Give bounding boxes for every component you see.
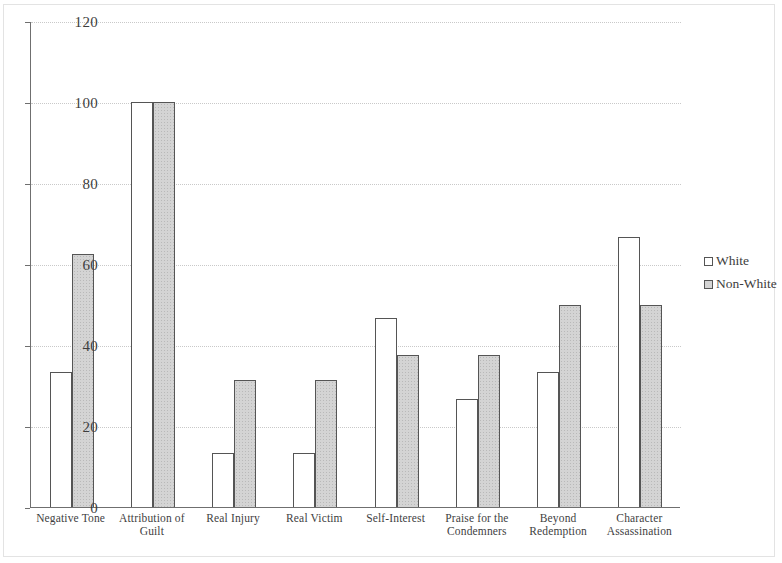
bar-non-white[interactable] (397, 355, 419, 507)
legend-item-non-white[interactable]: Non-White (704, 277, 780, 291)
y-tick-mark-0 (25, 508, 30, 509)
bar-group (456, 21, 500, 507)
bar-group (537, 21, 581, 507)
y-tick-label-40: 40 (52, 339, 98, 354)
bar-group (375, 21, 419, 507)
x-axis-label: Praise for theCondemners (436, 512, 517, 538)
bar-white[interactable] (50, 372, 72, 507)
bar-white[interactable] (375, 318, 397, 507)
legend-swatch-icon (704, 257, 713, 266)
y-tick-mark-120 (25, 22, 30, 23)
x-axis-label: Real Injury (193, 512, 274, 538)
plot-area (30, 22, 680, 508)
bar-non-white[interactable] (478, 355, 500, 507)
bar-non-white[interactable] (640, 305, 662, 508)
legend-swatch-icon (704, 280, 713, 289)
bar-white[interactable] (131, 102, 153, 507)
bar-white[interactable] (456, 399, 478, 507)
x-axis-label-line: Beyond (518, 512, 599, 525)
x-axis-label-line: Character (599, 512, 680, 525)
x-axis-label-line: Assassination (599, 525, 680, 538)
legend-item-white[interactable]: White (704, 254, 780, 268)
bar-non-white[interactable] (153, 102, 175, 507)
bar-group (293, 21, 337, 507)
bar-white[interactable] (537, 372, 559, 507)
x-axis-label-line: Negative Tone (30, 512, 111, 525)
x-axis-label-line: Attribution of (111, 512, 192, 525)
bar-chart-figure: 020406080100120 Negative ToneAttribution… (0, 0, 782, 563)
y-tick-mark-20 (25, 427, 30, 428)
x-axis-label-line: Praise for the (436, 512, 517, 525)
x-axis-label: Real Victim (274, 512, 355, 538)
x-axis-label: Negative Tone (30, 512, 111, 538)
y-tick-label-80: 80 (52, 177, 98, 192)
bar-group (618, 21, 662, 507)
y-tick-label-60: 60 (52, 258, 98, 273)
x-axis-label-line: Guilt (111, 525, 192, 538)
bar-groups (31, 21, 681, 507)
y-tick-mark-40 (25, 346, 30, 347)
y-tick-label-120: 120 (52, 15, 98, 30)
bar-non-white[interactable] (315, 380, 337, 507)
bar-group (212, 21, 256, 507)
x-axis-label-line: Real Victim (274, 512, 355, 525)
legend-label: White (716, 254, 749, 268)
bar-white[interactable] (293, 453, 315, 507)
x-axis-label: Self-Interest (355, 512, 436, 538)
y-tick-label-20: 20 (52, 420, 98, 435)
y-tick-mark-100 (25, 103, 30, 104)
x-axis-label-line: Real Injury (193, 512, 274, 525)
x-axis-label-line: Redemption (518, 525, 599, 538)
y-tick-label-100: 100 (52, 96, 98, 111)
x-axis-label: BeyondRedemption (518, 512, 599, 538)
bar-non-white[interactable] (234, 380, 256, 507)
x-axis-label: Attribution ofGuilt (111, 512, 192, 538)
bar-white[interactable] (212, 453, 234, 507)
x-axis-label-line: Self-Interest (355, 512, 436, 525)
x-axis-category-labels: Negative ToneAttribution ofGuiltReal Inj… (30, 512, 680, 538)
chart-legend: WhiteNon-White (704, 254, 780, 300)
x-axis-label-line: Condemners (436, 525, 517, 538)
y-tick-mark-80 (25, 184, 30, 185)
x-axis-label: CharacterAssassination (599, 512, 680, 538)
y-tick-mark-60 (25, 265, 30, 266)
bar-group (131, 21, 175, 507)
bar-white[interactable] (618, 237, 640, 507)
legend-label: Non-White (716, 277, 777, 291)
bar-non-white[interactable] (72, 254, 94, 507)
bar-non-white[interactable] (559, 305, 581, 508)
